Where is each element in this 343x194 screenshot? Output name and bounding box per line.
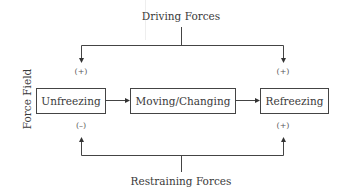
driving-forces-label: Driving Forces xyxy=(142,11,220,22)
refreezing-restraining-sign: (+) xyxy=(277,122,290,130)
restraining-forces-label: Restraining Forces xyxy=(131,176,232,187)
unfreezing-label: Unfreezing xyxy=(41,95,100,107)
refreezing-label: Refreezing xyxy=(266,95,324,107)
refreezing-box: Refreezing xyxy=(260,88,329,114)
moving-changing-label: Moving/Changing xyxy=(136,95,231,107)
unfreezing-restraining-sign: (–) xyxy=(76,122,86,130)
force-field-label: Force Field xyxy=(22,69,33,129)
unfreezing-driving-sign: (+) xyxy=(75,68,88,76)
unfreezing-box: Unfreezing xyxy=(36,88,106,114)
refreezing-driving-sign: (+) xyxy=(277,68,290,76)
moving-changing-box: Moving/Changing xyxy=(130,88,236,114)
